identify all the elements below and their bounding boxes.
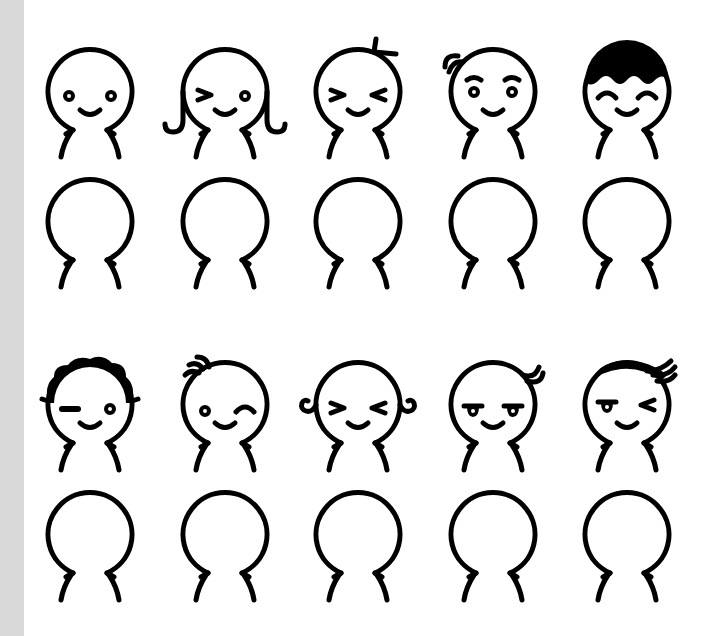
blank-figure [585, 180, 669, 287]
character-side-curls-squint [302, 363, 415, 470]
blank-figure [183, 493, 267, 600]
blank-figure [451, 493, 535, 600]
blank-figure [183, 180, 267, 287]
character-sheet [0, 0, 708, 636]
character-swoop-hair-wink [585, 361, 675, 470]
blank-figure [451, 180, 535, 287]
character-tuft-wink [183, 357, 267, 470]
blank-figure [316, 180, 400, 287]
character-sprout-squint [316, 39, 400, 157]
blank-figure [48, 180, 132, 287]
blank-figure [48, 493, 132, 600]
character-curly-sides-wink [165, 50, 285, 157]
character-bowl-cut-happy [585, 40, 669, 157]
blank-figure [316, 493, 400, 600]
character-curl-brows [445, 50, 535, 157]
character-right-curl-sly [451, 363, 543, 470]
blank-figure [585, 493, 669, 600]
character-wavy-hair-wink [42, 357, 138, 470]
character-plain-dot-eyes [48, 50, 132, 157]
